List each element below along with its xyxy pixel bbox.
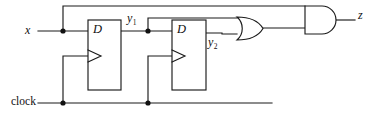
- junction-y1-dot: [145, 28, 150, 33]
- label-output-z: z: [358, 9, 363, 21]
- junction-clock-1-dot: [60, 100, 65, 105]
- label-signal-y1-base: y: [127, 11, 132, 25]
- or-gate-body[interactable]: [237, 17, 263, 40]
- label-input-x: x: [25, 24, 30, 36]
- wire-clock-to-ff2: [148, 56, 172, 103]
- label-signal-y2-subscript: 2: [214, 42, 218, 51]
- junction-clock-2-dot: [145, 100, 150, 105]
- label-flipflop-2-d: D: [177, 23, 186, 36]
- wire-ff2-q-to-or-gate: [206, 33, 237, 34]
- label-signal-y2-base: y: [208, 35, 213, 49]
- label-input-clock: clock: [11, 96, 36, 108]
- label-flipflop-1-d: D: [93, 23, 102, 36]
- label-signal-y1: y1: [127, 12, 136, 24]
- junction-x-dot: [60, 28, 65, 33]
- wire-clock-to-ff1: [63, 56, 88, 103]
- label-signal-y2: y2: [208, 36, 217, 48]
- circuit-svg: [0, 0, 377, 121]
- label-signal-y1-subscript: 1: [133, 18, 137, 27]
- and-gate-body[interactable]: [305, 6, 336, 34]
- circuit-diagram: x clock y1 y2 z D D: [0, 0, 377, 121]
